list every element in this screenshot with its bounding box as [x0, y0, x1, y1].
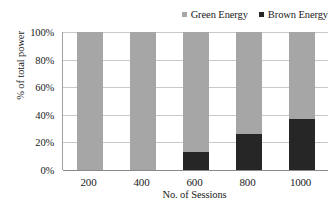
y-tick-label: 0%	[40, 165, 54, 176]
x-tick-label: 800	[240, 176, 256, 188]
y-tick-label: 100%	[30, 27, 54, 38]
x-tick-slot: 800	[221, 172, 274, 190]
bar-stack[interactable]	[236, 32, 262, 170]
y-axis-tick-labels: 100%80%60%40%20%0%	[0, 32, 58, 170]
plot-area	[62, 32, 328, 170]
x-axis-line	[63, 170, 328, 171]
y-tick-label: 20%	[35, 137, 54, 148]
y-tick-label: 40%	[35, 109, 54, 120]
bar-series-group	[63, 32, 328, 170]
chart-legend: Green Energy Brown Energy	[0, 9, 333, 20]
bar-slot	[63, 32, 116, 170]
bar-stack[interactable]	[130, 32, 156, 170]
bar-slot	[169, 32, 222, 170]
chart-container: Green Energy Brown Energy % of total pow…	[0, 0, 333, 209]
x-tick-label: 200	[81, 176, 97, 188]
legend-swatch-green-energy	[182, 12, 187, 17]
bar-slot	[222, 32, 275, 170]
x-axis-tick-labels: 2004006008001000	[62, 172, 327, 190]
x-tick-slot: 600	[168, 172, 221, 190]
bar-stack[interactable]	[183, 32, 209, 170]
bar-stack[interactable]	[77, 32, 103, 170]
bar-segment-green-energy[interactable]	[77, 32, 103, 170]
y-tick-label: 80%	[35, 54, 54, 65]
legend-item-green-energy: Green Energy	[182, 9, 248, 20]
x-tick-slot: 400	[115, 172, 168, 190]
legend-label-green-energy: Green Energy	[191, 9, 248, 20]
bar-segment-green-energy[interactable]	[130, 32, 156, 170]
bar-segment-green-energy[interactable]	[183, 32, 209, 152]
bar-segment-green-energy[interactable]	[289, 32, 315, 119]
bar-stack[interactable]	[289, 32, 315, 170]
bar-segment-green-energy[interactable]	[236, 32, 262, 134]
bar-segment-brown-energy[interactable]	[236, 134, 262, 170]
y-tick-label: 60%	[35, 82, 54, 93]
x-tick-label: 600	[187, 176, 203, 188]
bar-segment-brown-energy[interactable]	[289, 119, 315, 170]
legend-item-brown-energy: Brown Energy	[259, 9, 328, 20]
legend-label-brown-energy: Brown Energy	[268, 9, 328, 20]
bar-slot	[116, 32, 169, 170]
bar-segment-brown-energy[interactable]	[183, 152, 209, 170]
x-tick-slot: 200	[62, 172, 115, 190]
x-tick-label: 1000	[290, 176, 311, 188]
x-tick-slot: 1000	[274, 172, 327, 190]
legend-swatch-brown-energy	[259, 12, 264, 17]
x-axis-title: No. of Sessions	[62, 189, 327, 200]
x-tick-label: 400	[134, 176, 150, 188]
bar-slot	[275, 32, 328, 170]
